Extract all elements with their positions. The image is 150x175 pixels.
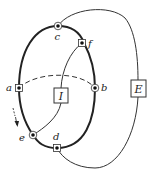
vertex-b-label: b: [101, 82, 107, 93]
edge-E-d: [57, 97, 138, 168]
dashed-edge-a-b: [19, 75, 95, 88]
graph-diagram: I E a b c f e d: [0, 0, 150, 175]
box-outer-E: E: [131, 80, 146, 97]
edge-c-E: [58, 10, 138, 80]
vertex-a-label: a: [6, 82, 12, 93]
vertex-d-label: d: [53, 131, 59, 142]
box-outer-label: E: [133, 83, 142, 96]
direction-arrow-icon: [13, 108, 19, 127]
vertex-d: d: [53, 131, 61, 152]
edge-f-I: [61, 43, 82, 88]
vertex-e: e: [19, 131, 37, 143]
box-inner-I: I: [54, 88, 68, 103]
vertex-e-label: e: [19, 132, 25, 143]
vertex-c: c: [54, 22, 62, 42]
vertex-b: b: [91, 82, 107, 93]
vertex-f-label: f: [87, 38, 94, 49]
box-inner-label: I: [58, 90, 64, 103]
vertex-c-label: c: [55, 31, 61, 42]
